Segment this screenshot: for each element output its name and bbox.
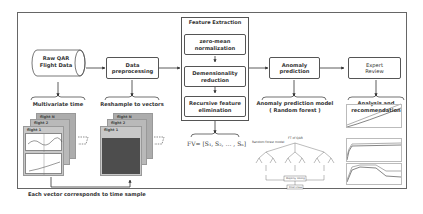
time-series-plot-top — [25, 133, 62, 151]
anomaly-prediction-model-label: Anomaly prediction model ( Random forest… — [254, 100, 336, 114]
random-forest-diagram — [256, 143, 334, 189]
vector-matrix — [102, 138, 140, 174]
footer-caption: Each vector corresponds to time sample — [28, 191, 168, 198]
rf-final-class-label: Final Class — [289, 186, 302, 189]
rf-model-label: Random forest model — [252, 140, 284, 144]
feature-extraction-title: Feature Extraction — [182, 19, 248, 25]
raw-qar-flight-data-node: Raw QAR Flight Data — [33, 55, 79, 69]
analysis-plot-3 — [346, 163, 402, 185]
reshample-to-vectors-label: Reshample to vectors — [96, 101, 168, 108]
analysis-plot-1 — [346, 104, 402, 128]
data-preprocessing-node: Data preprocessing — [106, 57, 159, 79]
flight-card-label: flight 1 — [104, 128, 118, 132]
dimensionality-reduction-node: Demensionality reduction — [184, 66, 246, 87]
analysis-plot-2 — [346, 138, 402, 162]
flight-card-label: flight 1 — [27, 128, 41, 132]
flight-card-label: flight 2 — [34, 121, 48, 125]
anomaly-prediction-node: Anomaly prediction — [269, 57, 320, 79]
recursive-feature-elimination-node: Recursive feature elimination — [184, 96, 246, 117]
expert-review-node: Expert Review — [348, 57, 401, 79]
rf-majority-voting-label: Majority Voting — [286, 177, 305, 180]
flight-card-label: flight 2 — [111, 121, 125, 125]
multivariate-time-label: Multivariate time — [26, 101, 90, 108]
feature-vector-formula: FV= [S₁, S₂, … , Sₙ] — [187, 140, 247, 147]
zero-mean-normalization-node: zero-mean normalization — [184, 34, 246, 55]
time-series-plot-bottom — [25, 153, 62, 174]
rf-input-label: FT of QAR — [288, 136, 303, 140]
